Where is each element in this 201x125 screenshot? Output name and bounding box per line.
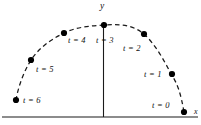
data-point-t5	[28, 57, 34, 63]
data-point-t1	[169, 71, 175, 77]
data-point-t4	[61, 30, 67, 36]
parametric-curve-figure: y x t = 0 t = 1 t = 2 t = 3 t = 4 t = 5 …	[0, 0, 201, 125]
data-point-t0	[181, 109, 187, 115]
point-label-t4: t = 4	[68, 36, 86, 45]
figure-canvas	[0, 0, 201, 125]
point-label-t3: t = 3	[96, 36, 114, 45]
point-label-t6: t = 6	[23, 96, 41, 105]
x-axis-label: x	[194, 108, 198, 116]
point-label-t0: t = 0	[152, 101, 170, 110]
point-label-t2: t = 2	[123, 44, 141, 53]
point-label-t1: t = 1	[144, 70, 162, 79]
point-label-t5: t = 5	[36, 65, 54, 74]
data-point-t3	[101, 22, 107, 28]
data-point-t2	[141, 31, 147, 37]
data-point-t6	[13, 97, 19, 103]
y-axis-label: y	[100, 2, 104, 12]
